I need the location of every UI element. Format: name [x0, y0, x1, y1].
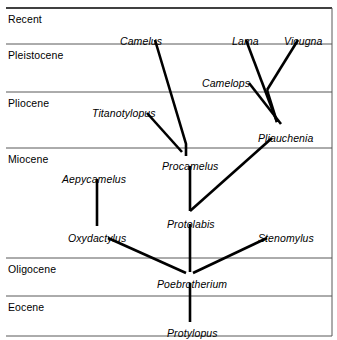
epoch-label-recent: Recent	[8, 13, 42, 25]
taxon-label-titanotylopus: Titanotylopus	[92, 107, 156, 119]
taxon-label-protolabis: Protolabis	[167, 218, 215, 230]
epoch-label-miocene: Miocene	[8, 153, 48, 165]
taxon-label-stenomylus: Stenomylus	[258, 232, 314, 244]
taxon-label-camelops: Camelops	[202, 77, 250, 89]
branch-vicugna-to-junction	[267, 40, 298, 90]
taxon-label-vicugna: Vicugna	[284, 35, 322, 47]
epoch-label-pliocene: Pliocene	[8, 97, 49, 109]
taxon-label-poebrotherium: Poebrotherium	[157, 278, 227, 290]
taxon-label-procamelus: Procamelus	[162, 160, 218, 172]
taxon-label-lama: Lama	[232, 35, 259, 47]
epoch-label-pleistocene: Pleistocene	[8, 49, 63, 61]
taxon-label-oxydactylus: Oxydactylus	[68, 232, 126, 244]
taxon-label-aepycamelus: Aepycamelus	[62, 173, 126, 185]
taxon-label-protylopus: Protylopus	[167, 327, 218, 339]
taxon-label-camelus: Camelus	[120, 35, 162, 47]
branch-pliauchenia-to-protolabis	[190, 138, 272, 211]
epoch-label-eocene: Eocene	[8, 301, 44, 313]
taxon-label-pliauchenia: Pliauchenia	[258, 132, 313, 144]
branch-stenomylus-to-poebrotherium	[193, 238, 267, 273]
epoch-label-oligocene: Oligocene	[8, 263, 56, 275]
phylogenetic-tree-diagram: RecentPleistocenePlioceneMioceneOligocen…	[0, 0, 337, 340]
